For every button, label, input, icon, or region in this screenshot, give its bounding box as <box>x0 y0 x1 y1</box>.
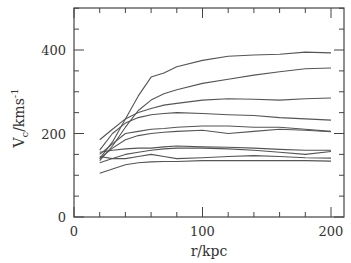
axis-tick-labels: 01002000200400 <box>41 43 343 239</box>
rotation-curve-curve-1 <box>100 52 331 159</box>
y-tick-label: 0 <box>58 210 66 225</box>
rotation-curve-curve-9 <box>100 154 331 158</box>
axis-ticks <box>74 8 344 217</box>
y-tick-label: 200 <box>41 127 66 142</box>
rotation-curve-curve-10 <box>100 161 331 174</box>
rotation-curve-chart: 01002000200400 r/kpc Vc/kms-1 <box>0 0 351 263</box>
x-tick-label: 100 <box>190 224 215 239</box>
rotation-curve-curve-7 <box>100 146 331 152</box>
x-tick-label: 200 <box>319 224 344 239</box>
plot-border <box>74 8 344 217</box>
data-curves <box>100 52 331 173</box>
x-axis-label: r/kpc <box>191 243 228 259</box>
svg-text:Vc/kms-1: Vc/kms-1 <box>9 88 30 148</box>
x-tick-label: 0 <box>70 224 78 239</box>
y-axis-label: Vc/kms-1 <box>9 88 30 148</box>
plot-frame <box>74 8 344 217</box>
y-tick-label: 400 <box>41 43 66 58</box>
